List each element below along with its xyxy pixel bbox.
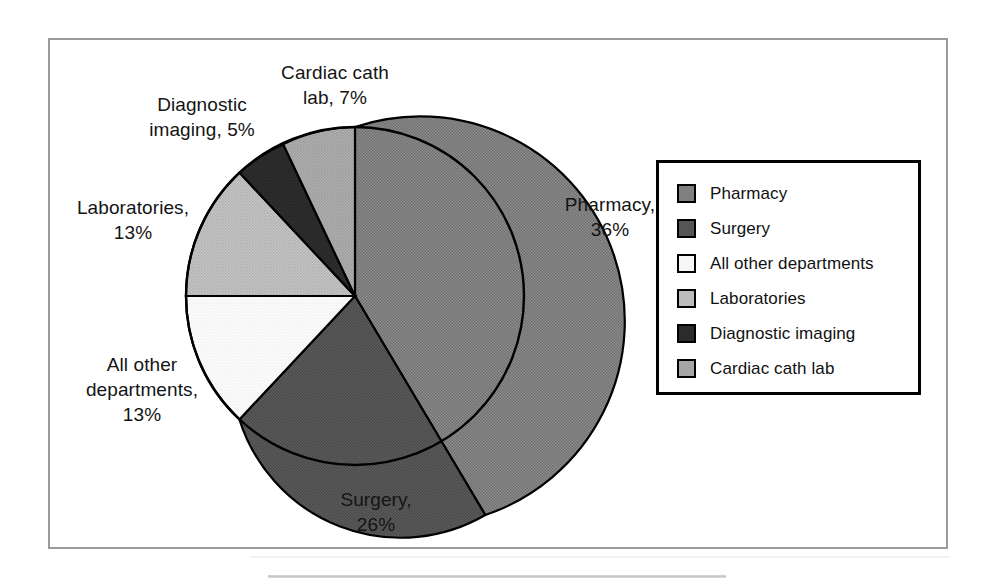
- legend-swatch-pharmacy: [677, 184, 696, 203]
- legend-item-surgery: Surgery: [677, 211, 918, 246]
- legend-label-cardiac-cath-lab: Cardiac cath lab: [710, 359, 834, 379]
- legend-swatch-all-other-departments: [677, 254, 696, 273]
- legend-swatch-cardiac-cath-lab: [677, 359, 696, 378]
- legend-swatch-diagnostic-imaging: [677, 324, 696, 343]
- legend-item-cardiac-cath-lab: Cardiac cath lab: [677, 351, 918, 386]
- pie-label-surgery: Surgery, 26%: [286, 487, 466, 537]
- scan-artifact-upper: [250, 556, 950, 558]
- legend-item-laboratories: Laboratories: [677, 281, 918, 316]
- pie-label-laboratories: Laboratories, 13%: [48, 195, 218, 245]
- pie-label-diagnostic-imaging: Diagnostic imaging, 5%: [112, 92, 292, 142]
- legend-item-all-other-departments: All other departments: [677, 246, 918, 281]
- legend-label-surgery: Surgery: [710, 219, 770, 239]
- legend-label-diagnostic-imaging: Diagnostic imaging: [710, 324, 855, 344]
- legend-swatch-laboratories: [677, 289, 696, 308]
- pie-label-all-other-departments: All other departments, 13%: [52, 352, 232, 427]
- legend-label-pharmacy: Pharmacy: [710, 184, 787, 204]
- legend-item-pharmacy: Pharmacy: [677, 176, 918, 211]
- chart-legend: Pharmacy Surgery All other departments L…: [656, 160, 921, 395]
- scan-artifact-strip: [268, 575, 726, 578]
- legend-item-diagnostic-imaging: Diagnostic imaging: [677, 316, 918, 351]
- legend-label-all-other-departments: All other departments: [710, 254, 874, 274]
- legend-label-laboratories: Laboratories: [710, 289, 806, 309]
- legend-swatch-surgery: [677, 219, 696, 238]
